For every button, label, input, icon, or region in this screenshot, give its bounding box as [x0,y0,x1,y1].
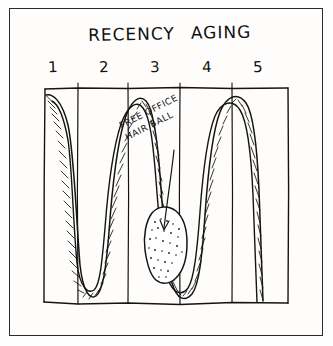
plot-box-top [45,88,288,90]
title-word-aging: AGING [191,22,252,43]
column-label-1: 1 [48,58,58,76]
column-label-4: 4 [202,58,212,76]
chart-title: RECENCYAGING [88,22,252,45]
plot-box-left [44,89,45,302]
chart-drawing [0,0,333,346]
title-word-recency: RECENCY [88,23,175,45]
column-label-5: 5 [253,58,263,76]
plot-box-right [288,88,289,303]
grid-divider-4 [232,89,233,303]
figure-canvas: RECENCYAGING 1 2 3 4 5 FREE OFFICE HAIR … [0,0,333,346]
column-label-3: 3 [150,58,160,76]
plot-box-bottom [44,302,288,305]
column-label-2: 2 [99,58,109,76]
